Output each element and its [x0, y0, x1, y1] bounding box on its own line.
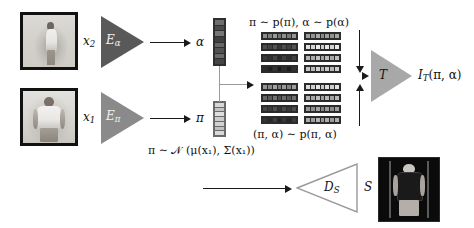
arrow-encoder-pi-head — [184, 115, 191, 123]
posterior-label: π ∼ 𝒩 (μ(x₁), Σ(x₁)) — [148, 144, 255, 157]
sample-row-block — [304, 83, 341, 91]
segmentation-legs — [399, 200, 419, 216]
latent-pi-vector — [213, 101, 226, 137]
arrow-to-decoder-line — [203, 188, 287, 189]
output-S-label: S — [364, 180, 372, 194]
sample-row-block — [304, 43, 341, 51]
sample-row-block — [261, 83, 298, 91]
sample-row-block — [261, 94, 298, 102]
latent-pi-label: π — [196, 111, 204, 125]
photo-x2-legs — [47, 50, 55, 65]
sample-row-block — [261, 32, 298, 40]
input-label-x1: x1 — [83, 110, 95, 125]
photo-x1-torso — [37, 106, 61, 130]
arrow-encoder-alpha-head — [184, 39, 191, 47]
input-label-x2: x2 — [83, 34, 95, 49]
encoder-pi-label: Eπ — [106, 109, 120, 124]
arrow-grid-to-T-bottom-line — [359, 88, 360, 126]
photo-x2-content — [23, 15, 75, 67]
segmentation-arm-right — [420, 175, 425, 196]
photo-x1-legs — [40, 128, 59, 142]
arrow-encoder-alpha-line — [150, 42, 186, 43]
arrow-to-decoder-head — [285, 185, 292, 193]
input-photo-x2 — [20, 12, 78, 70]
sample-row-block — [304, 54, 341, 62]
sample-row-block — [304, 116, 341, 124]
encoder-alpha-label: Eα — [106, 33, 121, 48]
sample-row-block — [261, 105, 298, 113]
photo-x1-arm-right — [60, 109, 65, 130]
sample-row-block — [261, 54, 298, 62]
transformer-T-label: T — [379, 68, 387, 82]
input-photo-x1 — [20, 88, 78, 146]
connector-branch-arrowhead — [247, 81, 254, 89]
sample-row-block — [261, 43, 298, 51]
segmentation-content — [379, 158, 439, 221]
latent-alpha-label: α — [196, 35, 204, 49]
segmentation-arm-left — [393, 175, 398, 196]
sample-row-block — [304, 94, 341, 102]
arrow-into-T-head — [362, 72, 369, 80]
photo-x1-content — [23, 91, 75, 143]
sample-row-block — [304, 105, 341, 113]
arrow-grid-to-T-bottom-head — [356, 84, 364, 91]
transformer-output-label: IT(π, α) — [418, 68, 462, 83]
connector-branch — [219, 84, 249, 85]
latent-alpha-vector — [213, 18, 226, 66]
transformer-T-triangle — [371, 50, 412, 102]
decoder-DS-label: DS — [324, 180, 340, 195]
arrow-grid-to-T-top-line — [359, 30, 360, 68]
segmentation-bar-right — [427, 161, 429, 219]
sample-row-block — [304, 32, 341, 40]
joint-sampling-label: (π, α) ∼ p(π, α) — [253, 128, 337, 141]
segmentation-bar-left — [389, 161, 391, 219]
output-segmentation-image — [378, 157, 440, 222]
figure-canvas: x2 Eα α x1 Eπ — [0, 0, 474, 228]
sample-row-block — [261, 116, 298, 124]
prior-sampling-label: π ∼ p(π), α ∼ p(α) — [249, 16, 349, 29]
sample-row-block — [261, 65, 298, 73]
sample-row-block — [304, 65, 341, 73]
photo-x1-arm-left — [33, 109, 38, 130]
arrow-encoder-pi-line — [150, 118, 186, 119]
